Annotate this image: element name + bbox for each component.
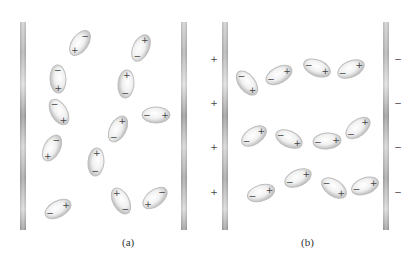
- dipole-molecule: +−: [44, 95, 73, 129]
- plate-shading: [383, 22, 389, 230]
- plus-charge: +: [113, 188, 121, 198]
- plus-charge: +: [93, 148, 101, 158]
- dipole-molecule: +−: [312, 132, 341, 150]
- plate-shading: [20, 22, 26, 230]
- plus-charge: +: [283, 66, 291, 76]
- molecule-ellipse: [232, 67, 262, 99]
- plus-charge: +: [338, 188, 346, 198]
- minus-charge: −: [46, 208, 54, 218]
- plate-charge-minus: −: [394, 98, 402, 108]
- plus-charge: +: [293, 138, 301, 148]
- plus-charge: +: [322, 66, 330, 76]
- minus-charge: −: [314, 137, 322, 147]
- plate-shading: [222, 22, 228, 230]
- plus-charge: +: [123, 70, 131, 80]
- minus-charge: −: [277, 130, 285, 140]
- plate-charge-minus: −: [394, 187, 402, 197]
- minus-charge: −: [267, 74, 275, 84]
- dipole-molecule: +−: [38, 131, 66, 165]
- dipole-molecule: +−: [334, 56, 367, 83]
- dipole-molecule: +−: [117, 69, 135, 99]
- dipole-molecule: +−: [272, 126, 305, 153]
- dielectric-polarization-diagram: +−+−+−+−+−+−+−+−+−+−+−+− ++++−−−−+−+−+−+…: [0, 0, 420, 255]
- dipole-molecule: +−: [104, 112, 132, 146]
- dipole-molecule: +−: [87, 147, 105, 177]
- dipole-molecule: +−: [301, 55, 334, 81]
- dipole-molecule: +−: [281, 165, 314, 192]
- plus-charge: +: [266, 185, 274, 195]
- minus-charge: −: [238, 71, 246, 81]
- dipole-molecule: +−: [349, 174, 381, 199]
- minus-charge: −: [249, 191, 257, 201]
- plus-charge: +: [370, 178, 378, 188]
- minus-charge: −: [305, 60, 313, 70]
- molecule-ellipse: [65, 27, 94, 59]
- plus-charge: +: [249, 85, 257, 95]
- plus-charge: +: [44, 151, 52, 161]
- minus-charge: −: [121, 204, 129, 214]
- caption-a: (a): [122, 236, 134, 248]
- minus-charge: −: [133, 51, 141, 61]
- minus-charge: −: [286, 177, 294, 187]
- dipole-molecule: +−: [317, 173, 351, 203]
- dipole-molecule: +−: [65, 26, 96, 60]
- minus-charge: −: [121, 88, 129, 98]
- minus-charge: −: [54, 65, 62, 75]
- plus-charge: +: [361, 117, 369, 127]
- dipole-molecule: +−: [245, 181, 277, 205]
- dipole-molecule: +−: [41, 195, 74, 223]
- plate-charge-plus: +: [210, 98, 218, 108]
- plus-charge: +: [71, 45, 79, 55]
- plus-charge: +: [302, 169, 310, 179]
- plate-charge-minus: −: [394, 142, 402, 152]
- dipole-molecule: +−: [127, 31, 154, 65]
- plus-charge: +: [141, 35, 149, 45]
- panel-a: +−+−+−+−+−+−+−+−+−+−+−+−: [20, 22, 187, 230]
- plate-charge-plus: +: [210, 187, 218, 197]
- plate-charge-minus: −: [394, 54, 402, 64]
- plus-charge: +: [62, 200, 70, 210]
- minus-charge: −: [51, 99, 59, 109]
- panel-b: ++++−−−−+−+−+−+−+−+−+−+−+−+−+−+−: [210, 22, 402, 230]
- minus-charge: −: [347, 129, 355, 139]
- plate-shading: [181, 22, 187, 230]
- minus-charge: −: [158, 187, 166, 197]
- minus-charge: −: [52, 135, 60, 145]
- dipole-molecule: +−: [262, 61, 295, 89]
- dipole-molecule: +−: [231, 66, 262, 100]
- plus-charge: +: [60, 115, 68, 125]
- dipole-molecule: +−: [107, 184, 135, 218]
- dipole-molecule: +−: [142, 107, 170, 123]
- plus-charge: +: [161, 110, 169, 120]
- plus-charge: +: [258, 126, 266, 136]
- plate-charge-plus: +: [210, 142, 218, 152]
- dipole-molecule: +−: [138, 182, 172, 213]
- caption-b: (b): [301, 236, 314, 248]
- plus-charge: +: [118, 116, 126, 126]
- minus-charge: −: [81, 31, 89, 41]
- plus-charge: +: [144, 199, 152, 209]
- plus-charge: +: [332, 135, 340, 145]
- minus-charge: −: [353, 184, 361, 194]
- dipole-molecule: +−: [341, 112, 375, 143]
- plus-charge: +: [55, 83, 63, 93]
- minus-charge: −: [323, 178, 331, 188]
- dipole-molecule: +−: [237, 121, 271, 151]
- minus-charge: −: [110, 132, 118, 142]
- minus-charge: −: [91, 166, 99, 176]
- plate-charge-plus: +: [210, 54, 218, 64]
- minus-charge: −: [143, 110, 151, 120]
- minus-charge: −: [339, 68, 347, 78]
- minus-charge: −: [243, 136, 251, 146]
- dipole-molecule: +−: [50, 65, 67, 94]
- plus-charge: +: [355, 60, 363, 70]
